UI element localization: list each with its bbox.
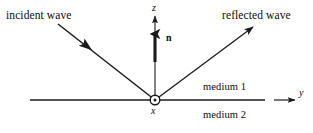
label-axis-z: z [152, 3, 156, 13]
origin-dot-icon [154, 99, 157, 102]
label-normal-vector-n: n [166, 33, 172, 43]
label-axis-y: y [299, 88, 303, 98]
incident-ray [58, 24, 155, 100]
label-incident-wave: incident wave [6, 10, 71, 22]
label-reflected-wave: reflected wave [222, 10, 291, 22]
label-medium-2: medium 2 [203, 110, 246, 121]
label-axis-x: x [151, 106, 155, 116]
label-medium-1: medium 1 [203, 82, 246, 93]
reflection-diagram-figure: incident wave reflected wave z y x n med… [0, 0, 313, 133]
